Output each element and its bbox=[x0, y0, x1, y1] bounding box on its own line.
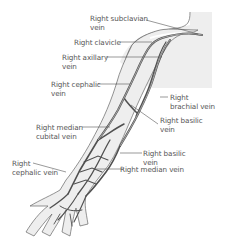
label-right-cephalic-vein-upper: Right cephalic vein bbox=[51, 80, 101, 98]
label-right-median-cubital-vein: Right median cubital vein bbox=[36, 123, 83, 141]
label-right-median-vein: Right median vein bbox=[120, 165, 184, 174]
label-right-basilic-vein-upper: Right basilic vein bbox=[160, 116, 203, 134]
label-right-subclavian-vein: Right subclavian vein bbox=[90, 14, 148, 32]
label-right-cephalic-vein-lower: Right cephalic vein bbox=[12, 159, 58, 177]
label-right-clavicle: Right clavicle bbox=[74, 38, 121, 47]
label-right-axillary-vein: Right axillary vein bbox=[62, 53, 108, 71]
label-right-brachial-vein: Right brachial vein bbox=[170, 93, 215, 111]
